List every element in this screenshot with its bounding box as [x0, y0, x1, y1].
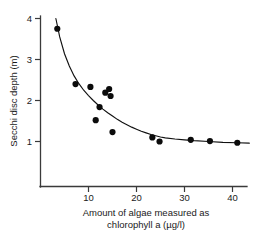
y-tick-label-3: 3 — [27, 54, 32, 65]
data-point — [96, 104, 102, 110]
x-tick-label-40: 40 — [227, 192, 238, 203]
y-tick-label-2: 2 — [27, 95, 32, 106]
y-axis-ticks — [35, 19, 40, 142]
x-tick-label-10: 10 — [83, 192, 94, 203]
data-point — [149, 134, 155, 140]
data-point — [54, 26, 60, 32]
data-point — [188, 137, 194, 143]
data-point — [107, 93, 113, 99]
data-point — [106, 86, 112, 92]
data-point — [93, 117, 99, 123]
y-axis-title: Secchi disc depth (m) — [8, 55, 19, 146]
scatter-chart-figure: 4 3 2 1 10 20 30 40 Secchi disc depth (m… — [0, 0, 262, 237]
data-point — [87, 84, 93, 90]
x-tick-label-20: 20 — [131, 192, 142, 203]
y-tick-label-1: 1 — [27, 136, 32, 147]
data-point — [234, 140, 240, 146]
data-point — [72, 81, 78, 87]
data-point — [109, 129, 115, 135]
x-tick-label-30: 30 — [179, 192, 190, 203]
chart-canvas: 4 3 2 1 10 20 30 40 Secchi disc depth (m… — [0, 0, 262, 237]
data-point — [207, 138, 213, 144]
x-axis-title-line1: Amount of algae measured as — [83, 207, 210, 218]
data-points-group — [54, 26, 240, 146]
data-point — [156, 138, 162, 144]
x-axis-ticks — [89, 187, 233, 192]
fitted-curve — [56, 19, 249, 144]
y-tick-label-4: 4 — [27, 13, 32, 24]
x-axis-title-line2: chlorophyll a (µg/l) — [107, 219, 185, 230]
